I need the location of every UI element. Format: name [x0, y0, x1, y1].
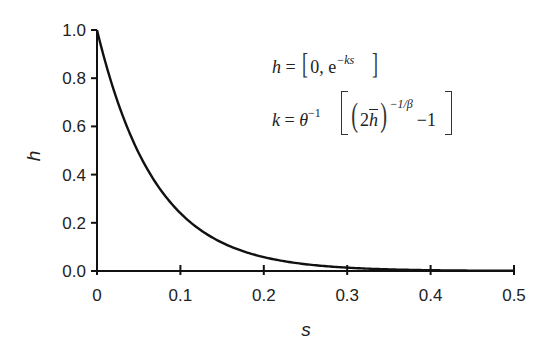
- eq2-left-bracket: [341, 91, 348, 135]
- eq2-paren-close: ): [380, 96, 387, 134]
- eq2-minus-one: −1: [417, 110, 436, 130]
- eq2-paren-open: (: [351, 96, 358, 134]
- eq2-hbar: h: [369, 110, 378, 130]
- eq1-close-bracket: ]: [372, 46, 378, 80]
- y-tick-label: 0.8: [62, 69, 86, 88]
- eq1-open-bracket: [: [302, 46, 308, 80]
- y-tick-label: 0.0: [62, 262, 86, 281]
- x-tick-label: 0: [92, 286, 101, 305]
- eq1-lhs: h: [272, 57, 281, 77]
- eq2-right-bracket: [445, 91, 452, 135]
- y-tick-label: 0.6: [62, 117, 86, 136]
- eq1-equals: =: [281, 57, 300, 77]
- eq2-theta: θ: [299, 110, 308, 130]
- x-tick-label: 0.4: [419, 286, 443, 305]
- equation-k: k = θ−1(2h)−1/β−1: [272, 96, 436, 134]
- eq2-two: 2: [360, 110, 369, 130]
- eq1-exponent: −ks: [336, 53, 354, 67]
- eq2-equals: =: [280, 110, 299, 130]
- eq2-exponent: −1/β: [389, 97, 412, 111]
- eq2-lhs: k: [272, 110, 280, 130]
- y-axis: 0.00.20.40.60.81.0: [62, 21, 97, 281]
- x-tick-label: 0.5: [502, 286, 526, 305]
- y-tick-label: 0.4: [62, 166, 86, 185]
- eq2-theta-exponent: −1: [308, 106, 321, 120]
- y-axis-label: h: [23, 151, 44, 162]
- x-tick-label: 0.3: [335, 286, 359, 305]
- x-axis-label: s: [301, 319, 311, 340]
- x-tick-label: 0.1: [169, 286, 193, 305]
- x-tick-label: 0.2: [252, 286, 276, 305]
- equation-h: h = [0, e−ks]: [272, 46, 380, 80]
- eq1-body: 0, e: [310, 57, 336, 77]
- y-tick-label: 0.2: [62, 214, 86, 233]
- y-tick-label: 1.0: [62, 21, 86, 40]
